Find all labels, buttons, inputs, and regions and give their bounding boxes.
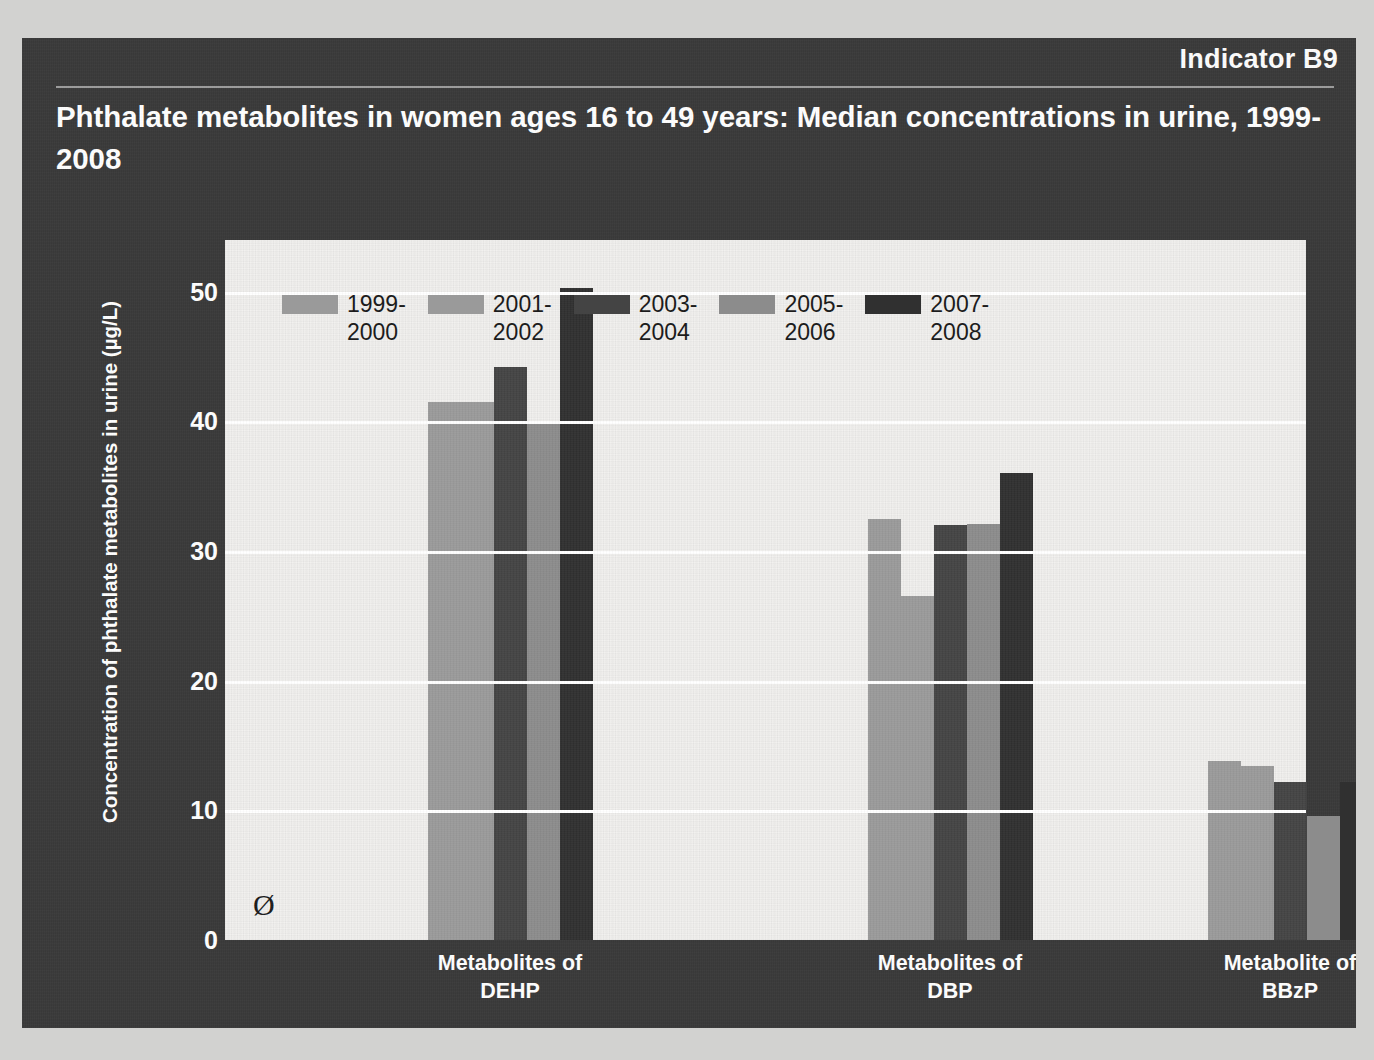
bar bbox=[560, 288, 593, 940]
gridline bbox=[225, 421, 1306, 424]
legend-item[interactable]: 2005- 2006 bbox=[719, 290, 843, 346]
indicator-label: Indicator B9 bbox=[1180, 44, 1338, 75]
bar bbox=[1274, 782, 1307, 940]
y-tick-label: 30 bbox=[148, 537, 218, 566]
bar bbox=[868, 519, 901, 940]
bar bbox=[1340, 782, 1357, 940]
bar bbox=[1208, 761, 1241, 940]
gridline bbox=[225, 681, 1306, 684]
bar bbox=[461, 402, 494, 940]
screenshot-page: Indicator B9 Phthalate metabolites in wo… bbox=[0, 0, 1374, 1060]
bar bbox=[1307, 816, 1340, 940]
bar bbox=[901, 596, 934, 940]
y-tick-label: 0 bbox=[148, 926, 218, 955]
zero-marker-icon: Ø bbox=[253, 888, 275, 922]
header-divider bbox=[56, 86, 1334, 88]
gridline bbox=[225, 551, 1306, 554]
legend-label: 2003- 2004 bbox=[639, 290, 698, 346]
y-tick-label: 50 bbox=[148, 277, 218, 306]
legend-item[interactable]: 2007- 2008 bbox=[865, 290, 989, 346]
bar bbox=[1241, 766, 1274, 940]
legend-label: 1999- 2000 bbox=[347, 290, 406, 346]
legend-label: 2001- 2002 bbox=[493, 290, 552, 346]
legend-item[interactable]: 2003- 2004 bbox=[574, 290, 698, 346]
legend-swatch-icon bbox=[428, 295, 484, 314]
bar bbox=[494, 367, 527, 940]
legend-label: 2007- 2008 bbox=[930, 290, 989, 346]
bar bbox=[967, 524, 1000, 940]
y-tick-label: 40 bbox=[148, 407, 218, 436]
legend-item[interactable]: 2001- 2002 bbox=[428, 290, 552, 346]
x-axis-category-label: Metabolite of BBzP bbox=[1140, 950, 1356, 1006]
x-axis-category-label: Metabolites of DEHP bbox=[360, 950, 660, 1006]
x-axis-category-label: Metabolites of DBP bbox=[800, 950, 1100, 1006]
legend-swatch-icon bbox=[719, 295, 775, 314]
legend-swatch-icon bbox=[282, 295, 338, 314]
bar bbox=[428, 402, 461, 940]
legend-swatch-icon bbox=[574, 295, 630, 314]
page-title: Phthalate metabolites in women ages 16 t… bbox=[56, 96, 1326, 180]
y-axis-title: Concentration of phthalate metabolites i… bbox=[98, 282, 122, 842]
legend-swatch-icon bbox=[865, 295, 921, 314]
y-axis-tick-labels: 01020304050 bbox=[140, 38, 218, 1028]
gridline bbox=[225, 810, 1306, 813]
legend-label: 2005- 2006 bbox=[784, 290, 843, 346]
legend-item[interactable]: 1999- 2000 bbox=[282, 290, 406, 346]
slide-panel: Indicator B9 Phthalate metabolites in wo… bbox=[22, 38, 1356, 1028]
y-tick-label: 10 bbox=[148, 796, 218, 825]
bar bbox=[1000, 473, 1033, 940]
y-tick-label: 20 bbox=[148, 666, 218, 695]
bar bbox=[934, 525, 967, 940]
chart-legend: 1999- 20002001- 20022003- 20042005- 2006… bbox=[282, 290, 1011, 346]
